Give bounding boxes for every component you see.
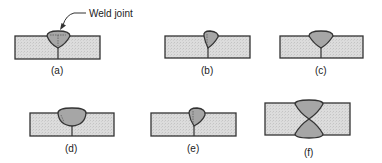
panel-c-label: (c) xyxy=(315,66,327,76)
panel-c-joint xyxy=(280,31,363,58)
panel-d-joint xyxy=(30,108,114,136)
leader-line xyxy=(63,13,86,25)
panel-b-label: (b) xyxy=(201,66,213,76)
weld-joint-diagram xyxy=(0,0,382,163)
panel-f-joint xyxy=(265,100,350,138)
panel-f-label: (f) xyxy=(304,148,313,158)
weld-joint-annotation: Weld joint xyxy=(89,9,133,19)
panel-b-joint xyxy=(165,31,250,58)
weld-bead-d xyxy=(58,108,86,126)
arrow-head-icon xyxy=(60,23,66,30)
panel-d-label: (d) xyxy=(65,144,77,154)
panel-e-label: (e) xyxy=(187,144,199,154)
panel-e-joint xyxy=(151,108,236,136)
panel-a-joint xyxy=(15,13,100,59)
panel-a-label: (a) xyxy=(51,66,63,76)
